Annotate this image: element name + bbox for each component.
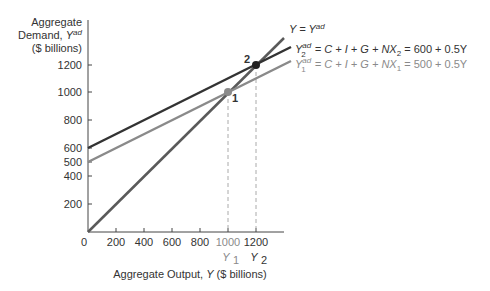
origin-label: 0 [81, 236, 87, 248]
equilibrium-point-1 [224, 88, 232, 96]
x-axis-title: Aggregate Output, Y ($ billions) [113, 268, 266, 280]
svg-text:1000: 1000 [58, 86, 82, 98]
y2-marker: Y 2 [250, 251, 267, 266]
svg-text:Y: Y [222, 251, 230, 263]
svg-text:800: 800 [64, 114, 82, 126]
y-axis-title: Aggregate Demand, Yad ($ billions) [18, 16, 82, 54]
label-45deg: Y = Yad [289, 22, 325, 35]
label-y1ad: Yad1 = C + I + G + NX1 = 500 + 0.5Y [295, 56, 468, 74]
svg-text:1000: 1000 [216, 236, 240, 248]
svg-text:1200: 1200 [58, 59, 82, 71]
y-tick-labels: 200 400 500 600 800 1000 1200 [58, 59, 82, 210]
svg-text:1200: 1200 [244, 236, 268, 248]
svg-text:Yad2 = C + I + G + NX2 = 600 +: Yad2 = C + I + G + NX2 = 600 + 0.5Y [295, 41, 468, 59]
point-1-label: 1 [232, 92, 238, 104]
svg-text:400: 400 [64, 170, 82, 182]
svg-text:($ billions): ($ billions) [32, 42, 82, 54]
x-tick-labels: 0 200 400 600 800 1000 1200 [81, 236, 268, 248]
point-2-label: 2 [244, 53, 250, 65]
svg-text:Demand, Yad: Demand, Yad [18, 28, 82, 41]
svg-text:2: 2 [261, 254, 267, 266]
svg-text:600: 600 [64, 142, 82, 154]
svg-text:200: 200 [107, 236, 125, 248]
svg-text:600: 600 [163, 236, 181, 248]
y1-marker: Y 1 [222, 251, 239, 266]
x-ticks [116, 228, 256, 232]
svg-text:Aggregate: Aggregate [31, 16, 82, 28]
svg-text:500: 500 [64, 156, 82, 168]
svg-text:Y: Y [250, 251, 258, 263]
svg-text:800: 800 [191, 236, 209, 248]
svg-text:Yad1 = C + I + G + NX1 = 500 +: Yad1 = C + I + G + NX1 = 500 + 0.5Y [295, 56, 468, 74]
svg-text:200: 200 [64, 198, 82, 210]
chart: 200 400 500 600 800 1000 1200 0 200 400 … [0, 0, 490, 291]
line-y1ad [88, 61, 291, 162]
svg-text:400: 400 [135, 236, 153, 248]
y-ticks [88, 65, 92, 204]
label-y2ad: Yad2 = C + I + G + NX2 = 600 + 0.5Y [295, 41, 468, 59]
equilibrium-point-2 [252, 61, 260, 69]
svg-text:1: 1 [233, 254, 239, 266]
